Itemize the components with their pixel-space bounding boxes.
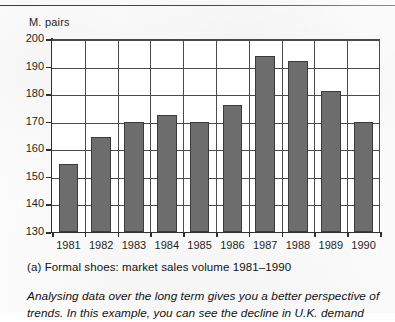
bar-1985 xyxy=(190,122,210,232)
x-tick-8 xyxy=(314,232,316,237)
bar-1986 xyxy=(223,105,243,232)
bar-series xyxy=(52,39,380,232)
y-tick-label-160: 160 xyxy=(4,143,44,154)
y-tick-label-190: 190 xyxy=(4,61,44,72)
y-tick-label-130: 130 xyxy=(4,226,44,237)
y-tick-label-150: 150 xyxy=(4,171,44,182)
x-tick-6 xyxy=(249,232,251,237)
bar-1984 xyxy=(157,115,177,232)
bar-1988 xyxy=(288,61,308,232)
y-axis-labels: 200190180170160150140130 xyxy=(0,0,44,250)
x-tick-4 xyxy=(183,232,185,237)
bar-1982 xyxy=(91,137,111,232)
y-tick-label-180: 180 xyxy=(4,88,44,99)
bar-1990 xyxy=(354,122,374,232)
x-tick-label-1990: 1990 xyxy=(344,239,384,251)
figure-caption: (a) Formal shoes: market sales volume 19… xyxy=(27,261,291,273)
bar-1987 xyxy=(255,56,275,232)
y-tick-label-200: 200 xyxy=(4,33,44,44)
x-tick-3 xyxy=(150,232,152,237)
bar-1989 xyxy=(321,91,341,232)
x-tick-10 xyxy=(380,232,382,237)
body-line-1: Analysing data over the long term gives … xyxy=(27,289,366,303)
x-tick-9 xyxy=(347,232,349,237)
bar-1981 xyxy=(59,164,79,232)
x-tick-0 xyxy=(52,232,54,237)
y-tick-label-170: 170 xyxy=(4,116,44,127)
x-tick-1 xyxy=(85,232,87,237)
x-tick-7 xyxy=(282,232,284,237)
bar-1983 xyxy=(124,122,144,232)
x-tick-5 xyxy=(216,232,218,237)
x-tick-2 xyxy=(118,232,120,237)
bar-chart: 200190180170160150140130 198119821983198… xyxy=(0,0,395,250)
body-paragraph: Analysing data over the long term gives … xyxy=(27,288,395,322)
y-tick-label-140: 140 xyxy=(4,198,44,209)
